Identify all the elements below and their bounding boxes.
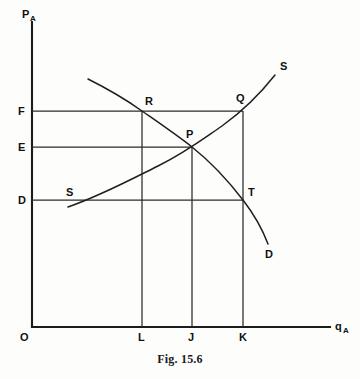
point-label-Q: Q	[236, 92, 245, 104]
supply-curve-end-label: S	[280, 60, 287, 72]
price-axis-label-subscript: A	[30, 14, 36, 23]
demand-curve-end-label: D	[265, 248, 273, 260]
quantity-tick-label-L: L	[138, 331, 145, 343]
point-label-T: T	[248, 186, 255, 198]
point-label-P: P	[186, 128, 193, 140]
quantity-tick-label-K: K	[239, 331, 247, 343]
quantity-axis-label-subscript: A	[343, 326, 349, 335]
price-tick-label-E: E	[18, 141, 25, 153]
price-tick-label-D: D	[18, 194, 26, 206]
origin-label: O	[20, 331, 29, 343]
point-label-R: R	[145, 95, 153, 107]
figure-container: P A q A O F E D L J K R Q P T S S D Fig.…	[0, 0, 360, 379]
quantity-tick-label-J: J	[188, 331, 194, 343]
supply-curve-start-label: S	[66, 186, 73, 198]
quantity-axis-label: q	[335, 320, 342, 332]
figure-caption: Fig. 15.6	[0, 352, 360, 367]
price-axis-label: P	[22, 8, 29, 20]
price-tick-label-F: F	[18, 105, 25, 117]
supply-demand-diagram: P A q A O F E D L J K R Q P T S S D	[0, 0, 360, 379]
